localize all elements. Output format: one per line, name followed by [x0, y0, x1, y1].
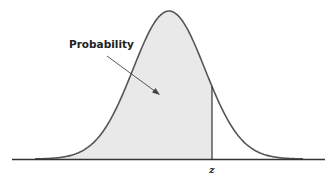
z-label: z: [208, 164, 215, 175]
probability-label: Probability: [69, 38, 134, 50]
normal-curve-figure: Probability z: [0, 0, 334, 180]
shaded-probability-area: [35, 11, 212, 159]
